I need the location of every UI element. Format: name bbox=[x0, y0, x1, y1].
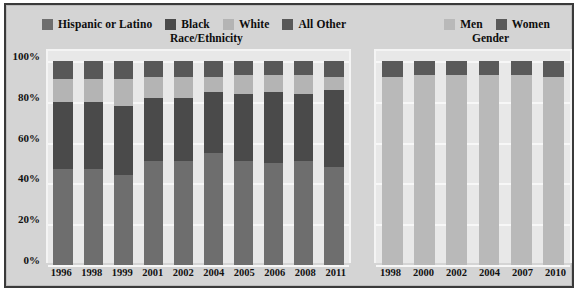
bar-segment bbox=[234, 61, 253, 75]
legend-swatch-icon bbox=[444, 19, 455, 30]
stacked-bar bbox=[234, 61, 253, 265]
legend-swatch-icon bbox=[42, 19, 53, 30]
bar-segment bbox=[294, 94, 313, 161]
legend-item-label: Black bbox=[181, 18, 210, 30]
y-axis-tick-label: 0% bbox=[6, 254, 40, 266]
stacked-bar bbox=[144, 61, 163, 265]
bars-race-ethnicity bbox=[48, 61, 349, 265]
x-axis-tick-label: 2010 bbox=[539, 267, 572, 281]
y-axis-tick-label: 40% bbox=[6, 172, 40, 184]
bar-segment bbox=[446, 61, 467, 75]
bar-segment bbox=[114, 175, 133, 265]
legend-item: Black bbox=[165, 18, 210, 30]
bar-segment bbox=[511, 61, 532, 75]
bar-segment bbox=[414, 75, 435, 265]
bar-segment bbox=[264, 92, 283, 163]
bar-segment bbox=[414, 61, 435, 75]
plot-area-race-ethnicity bbox=[46, 49, 351, 263]
x-axis-tick-label: 2004 bbox=[199, 267, 230, 281]
bar-segment bbox=[53, 61, 72, 79]
x-axis-race-ethnicity: 1996199819992001200220042005200620082011 bbox=[46, 267, 351, 281]
stacked-bar bbox=[174, 61, 193, 265]
group-title-race-ethnicity: Race/Ethnicity bbox=[170, 32, 243, 44]
bar-slot bbox=[473, 61, 505, 265]
legend-item: Women bbox=[496, 18, 550, 30]
bar-slot bbox=[198, 61, 228, 265]
x-axis-tick-label: 1999 bbox=[107, 267, 138, 281]
legend-swatch-icon bbox=[282, 19, 293, 30]
bar-segment bbox=[479, 75, 500, 265]
bar-slot bbox=[168, 61, 198, 265]
bars-gender bbox=[376, 61, 570, 265]
legend-item: All Other bbox=[282, 18, 346, 30]
bar-slot bbox=[259, 61, 289, 265]
y-axis-tick-label: 20% bbox=[6, 213, 40, 225]
bar-segment bbox=[53, 169, 72, 265]
stacked-bar bbox=[204, 61, 223, 265]
legend-item-label: Hispanic or Latino bbox=[58, 18, 152, 30]
bar-segment bbox=[144, 161, 163, 265]
y-axis-tick-label: 80% bbox=[6, 91, 40, 103]
bar-segment bbox=[174, 77, 193, 97]
legend-item-label: Men bbox=[460, 18, 483, 30]
legend-item-label: Women bbox=[512, 18, 550, 30]
bar-segment bbox=[114, 106, 133, 175]
bar-segment bbox=[264, 75, 283, 91]
bar-slot bbox=[319, 61, 349, 265]
bar-slot bbox=[138, 61, 168, 265]
x-axis-tick-label: 2008 bbox=[290, 267, 321, 281]
bar-slot bbox=[48, 61, 78, 265]
bar-slot bbox=[229, 61, 259, 265]
bar-segment bbox=[543, 77, 564, 265]
bar-segment bbox=[204, 153, 223, 265]
stacked-bar bbox=[114, 61, 133, 265]
bar-segment bbox=[144, 61, 163, 77]
legend-swatch-icon bbox=[223, 19, 234, 30]
bar-segment bbox=[204, 77, 223, 91]
x-axis-gender: 199820002002200420072010 bbox=[374, 267, 572, 281]
bar-segment bbox=[84, 79, 103, 101]
bar-segment bbox=[174, 98, 193, 161]
plot-race-ethnicity bbox=[48, 61, 349, 265]
bar-segment bbox=[324, 61, 343, 77]
x-axis-tick-label: 1996 bbox=[46, 267, 77, 281]
bar-segment bbox=[382, 77, 403, 265]
x-axis-tick-label: 2001 bbox=[138, 267, 169, 281]
bar-segment bbox=[53, 102, 72, 169]
x-axis-tick-label: 2006 bbox=[260, 267, 291, 281]
bar-segment bbox=[204, 61, 223, 77]
stacked-bar bbox=[511, 61, 532, 265]
bar-segment bbox=[264, 163, 283, 265]
plot-gender bbox=[376, 61, 570, 265]
chart-screenshot: Hispanic or LatinoBlackWhiteAll Other Me… bbox=[0, 0, 578, 294]
bar-segment bbox=[264, 61, 283, 75]
bar-slot bbox=[78, 61, 108, 265]
plot-area-gender bbox=[374, 49, 572, 263]
y-axis-tick-label: 60% bbox=[6, 132, 40, 144]
y-axis-tick-label: 100% bbox=[6, 50, 40, 62]
bar-segment bbox=[234, 94, 253, 161]
bar-segment bbox=[53, 79, 72, 101]
group-title-gender: Gender bbox=[472, 32, 509, 44]
bar-slot bbox=[376, 61, 408, 265]
bar-slot bbox=[289, 61, 319, 265]
legend-item-label: All Other bbox=[298, 18, 346, 30]
x-axis-tick-label: 2007 bbox=[506, 267, 539, 281]
bar-segment bbox=[84, 102, 103, 169]
bar-segment bbox=[294, 161, 313, 265]
bar-segment bbox=[543, 61, 564, 77]
stacked-bar bbox=[543, 61, 564, 265]
bar-segment bbox=[144, 77, 163, 97]
stacked-bar bbox=[479, 61, 500, 265]
x-axis-tick-label: 2005 bbox=[229, 267, 260, 281]
legend-race-ethnicity: Hispanic or LatinoBlackWhiteAll Other bbox=[42, 17, 359, 31]
legend-swatch-icon bbox=[496, 19, 507, 30]
x-axis-tick-label: 2002 bbox=[440, 267, 473, 281]
bar-segment bbox=[324, 77, 343, 89]
bar-segment bbox=[511, 75, 532, 265]
stacked-bar bbox=[84, 61, 103, 265]
bar-segment bbox=[204, 92, 223, 153]
bar-segment bbox=[479, 61, 500, 75]
x-axis-tick-label: 2011 bbox=[321, 267, 352, 281]
bar-segment bbox=[234, 161, 253, 265]
